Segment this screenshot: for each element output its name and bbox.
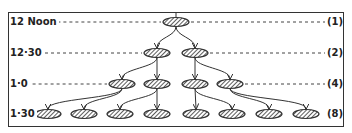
cell-node [219,110,245,119]
cell-node [163,18,189,27]
time-label: 1·30 [10,108,37,120]
division-arrow [84,89,122,109]
division-arrow [230,89,269,109]
division-arrow [195,58,230,79]
division-arrow [120,89,157,109]
cell-node [144,49,170,58]
time-guide-lines [33,22,328,84]
cell-node [71,110,97,119]
cell-node [217,80,243,89]
time-label: 1·0 [10,78,30,90]
division-arrow [195,89,232,109]
count-label: (2) [325,47,343,59]
cell-node [256,110,282,119]
cell-node [183,110,209,119]
count-label: (4) [325,78,343,90]
cell-nodes [35,18,319,119]
cell-node [182,49,208,58]
cell-node [107,110,133,119]
time-label: 12·30 [10,47,44,59]
cell-node [182,80,208,89]
division-arrow [176,27,195,48]
count-label: (8) [325,108,343,120]
cell-node [144,80,170,89]
cell-node [109,80,135,89]
division-arrow [157,27,176,48]
cell-node [293,110,319,119]
cell-node [144,110,170,119]
time-label: 12 Noon [10,16,59,28]
division-arrow [122,58,157,79]
cell-node [35,110,61,119]
count-label: (1) [325,16,343,28]
